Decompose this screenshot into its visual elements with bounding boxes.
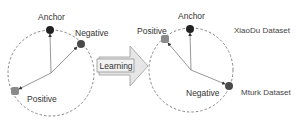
before-positive-label: Positive — [27, 94, 57, 104]
after-anchor-vector — [190, 33, 191, 70]
after-learning-panel: Anchor Positive Negative — [137, 11, 233, 112]
dataset-label-xiaodu: XiaoDu Dataset — [234, 26, 291, 35]
before-negative-vector — [51, 47, 77, 73]
after-anchor-label: Anchor — [178, 11, 205, 21]
before-anchor-label: Anchor — [38, 12, 65, 22]
after-positive-vector — [168, 43, 191, 70]
after-positive-label: Positive — [137, 26, 167, 36]
after-negative-point — [225, 82, 233, 90]
after-negative-vector — [191, 70, 225, 84]
before-positive-vector — [19, 73, 51, 89]
dataset-label-mturk: Mturk Dataset — [241, 88, 292, 97]
after-positive-point — [161, 35, 169, 43]
before-positive-point — [11, 87, 19, 95]
after-anchor-point — [186, 25, 194, 33]
before-anchor-vector — [50, 34, 51, 73]
before-negative-label: Negative — [75, 28, 109, 38]
before-negative-point — [77, 40, 85, 48]
after-negative-label: Negative — [186, 88, 220, 98]
learning-arrow: Learning — [97, 46, 148, 86]
triplet-learning-diagram: Anchor Negative Positive Learning Anchor… — [0, 0, 303, 123]
before-anchor-point — [46, 26, 54, 34]
learning-label: Learning — [100, 61, 133, 71]
before-learning-panel: Anchor Negative Positive — [8, 12, 109, 116]
